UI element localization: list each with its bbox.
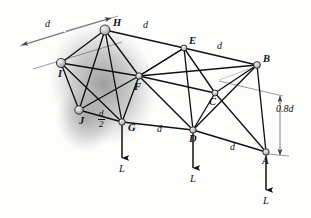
joint-I — [56, 58, 65, 67]
node-label-F: F — [134, 82, 141, 93]
node-label-A: A — [262, 156, 269, 167]
node-label-H: H — [113, 18, 121, 29]
joint-G — [119, 119, 125, 125]
load-label-G: L — [119, 164, 125, 175]
dimension-label-d-GD: d — [157, 124, 162, 134]
node-label-B: B — [263, 54, 270, 65]
truss-diagram-figure: HIJGFEDCBA dddd2dd0.8d LLL — [0, 0, 311, 218]
node-label-G: G — [128, 123, 136, 134]
joint-H — [100, 25, 110, 35]
node-label-E: E — [189, 36, 196, 47]
node-label-J: J — [79, 116, 84, 127]
joint-B — [254, 62, 261, 69]
dimension-label-h-0.8d: 0.8d — [276, 104, 294, 114]
truss-member-ED — [184, 48, 193, 130]
joint-F — [136, 73, 142, 79]
node-label-C: C — [209, 97, 216, 108]
joint-E — [181, 45, 187, 51]
node-label-I: I — [58, 69, 62, 80]
dimension-label-d-HE: d — [143, 20, 148, 30]
dimension-label-d-EB: d — [217, 41, 222, 51]
load-label-A: L — [263, 196, 269, 207]
joint-J — [75, 106, 83, 114]
dimension-label-d-half-JG: d2 — [98, 109, 105, 129]
truss-member-FB — [139, 65, 257, 76]
truss-diagram-canvas — [0, 0, 311, 218]
load-label-D: L — [190, 174, 196, 185]
dimension-label-d-DA: d — [230, 142, 235, 152]
truss-member-BA — [257, 65, 266, 152]
dimension-label-d-top-left: d — [45, 19, 50, 29]
truss-member-CA — [215, 93, 266, 152]
node-label-D: D — [189, 134, 197, 145]
